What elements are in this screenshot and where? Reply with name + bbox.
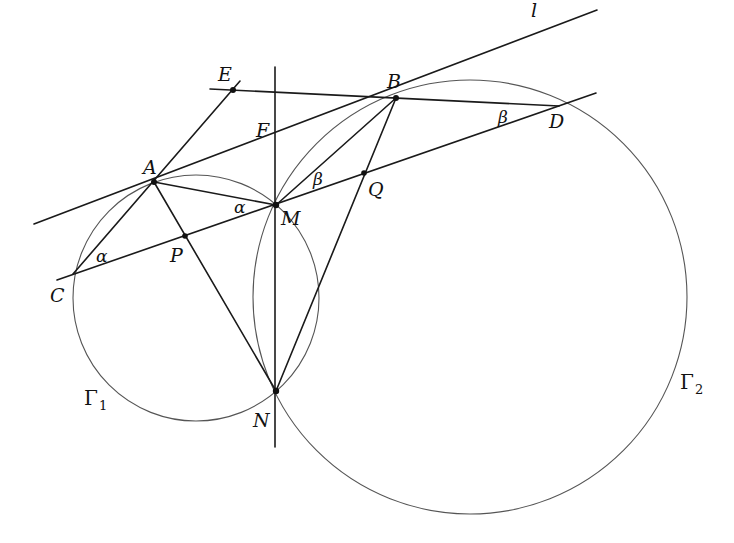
point-b <box>393 95 399 101</box>
point-e <box>230 87 236 93</box>
label-b: B <box>386 70 401 92</box>
label-e: E <box>217 63 232 85</box>
svg-text:Γ: Γ <box>680 370 694 394</box>
segment-am <box>154 182 276 205</box>
point-m <box>273 202 279 208</box>
label-p: P <box>169 244 184 266</box>
circle-gamma-2 <box>253 80 687 514</box>
label-c: C <box>50 284 65 306</box>
angle-alpha-at-c: α <box>96 246 108 266</box>
label-f: F <box>255 119 270 141</box>
geometry-diagram: l E B D F A Q M P C N α α β β Γ 1 Γ 2 <box>0 0 734 543</box>
angle-beta-at-m: β <box>312 169 323 189</box>
label-m: M <box>280 207 301 229</box>
angle-beta-at-d: β <box>497 107 508 127</box>
angle-alpha-at-m: α <box>234 197 246 217</box>
point-n <box>273 388 279 394</box>
segment-an <box>154 182 276 391</box>
label-a: A <box>141 156 157 178</box>
label-gamma-1: Γ 1 <box>84 386 107 413</box>
label-d: D <box>548 110 564 132</box>
svg-text:2: 2 <box>695 382 703 397</box>
segment-bn <box>276 98 396 391</box>
svg-text:1: 1 <box>99 398 107 413</box>
svg-text:Γ: Γ <box>84 386 98 410</box>
label-n: N <box>252 409 271 431</box>
tangent-line-l <box>34 10 597 224</box>
label-l: l <box>531 0 537 21</box>
point-q <box>361 170 367 176</box>
point-a <box>151 179 157 185</box>
point-p <box>182 233 188 239</box>
label-gamma-2: Γ 2 <box>680 370 703 397</box>
line-cd <box>57 93 596 280</box>
label-q: Q <box>368 178 384 200</box>
